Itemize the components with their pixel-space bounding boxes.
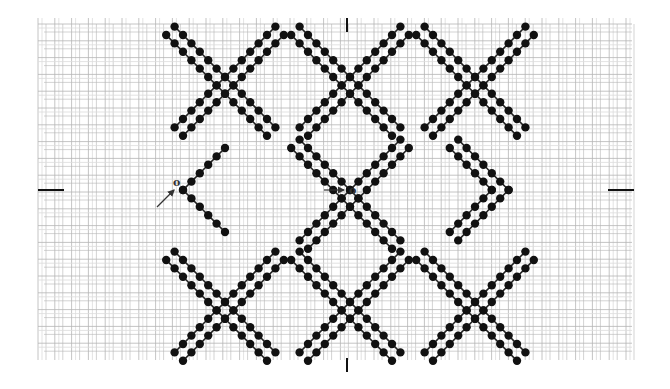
- stitch-point: [479, 177, 487, 185]
- stitch-point: [354, 306, 362, 314]
- stitch-point: [337, 306, 345, 314]
- stitch-point: [454, 281, 462, 289]
- stitch-point: [396, 135, 404, 143]
- stitch-point: [513, 256, 521, 264]
- stitch-point: [504, 331, 512, 339]
- stitch-point: [329, 73, 337, 81]
- stitch-point: [521, 348, 529, 356]
- stitch-point: [170, 22, 178, 30]
- stitch-point: [488, 315, 496, 323]
- stitch-point: [337, 64, 345, 72]
- stitch-point: [420, 123, 428, 131]
- stitch-point: [329, 331, 337, 339]
- stitch-point: [246, 64, 254, 72]
- stitch-point: [379, 236, 387, 244]
- stitch-point: [170, 123, 178, 131]
- stitch-point: [238, 331, 246, 339]
- stitch-point: [312, 219, 320, 227]
- stitch-point: [304, 256, 312, 264]
- stitch-point: [446, 48, 454, 56]
- stitch-point: [204, 211, 212, 219]
- stitch-point: [488, 169, 496, 177]
- stitch-point: [363, 315, 371, 323]
- stitch-point: [346, 315, 354, 323]
- stitch-point: [446, 273, 454, 281]
- stitch-point: [496, 289, 504, 297]
- stitch-point: [187, 264, 195, 272]
- stitch-point: [379, 106, 387, 114]
- stitch-point: [254, 39, 262, 47]
- stitch-point: [412, 31, 420, 39]
- start-label-center: o: [349, 184, 356, 197]
- stitch-point: [521, 22, 529, 30]
- stitch-point: [396, 247, 404, 255]
- stitch-point: [396, 22, 404, 30]
- stitch-point: [446, 228, 454, 236]
- stitch-point: [321, 48, 329, 56]
- stitch-point: [187, 177, 195, 185]
- stitch-point: [471, 315, 479, 323]
- stitch-point: [271, 247, 279, 255]
- stitch-point: [321, 211, 329, 219]
- stitch-point: [312, 56, 320, 64]
- stitch-point: [196, 273, 204, 281]
- stitch-point: [471, 90, 479, 98]
- stitch-point: [504, 56, 512, 64]
- stitch-point: [479, 64, 487, 72]
- stitch-point: [312, 39, 320, 47]
- stitch-point: [363, 281, 371, 289]
- stitch-point: [388, 115, 396, 123]
- stitch-point: [295, 123, 303, 131]
- stitch-point: [337, 323, 345, 331]
- stitch-point: [312, 281, 320, 289]
- stitch-point: [304, 228, 312, 236]
- stitch-point: [196, 64, 204, 72]
- stitch-point: [471, 169, 479, 177]
- stitch-point: [321, 161, 329, 169]
- stitch-point: [312, 123, 320, 131]
- stitch-point: [437, 264, 445, 272]
- stitch-point: [420, 39, 428, 47]
- stitch-point: [504, 106, 512, 114]
- stitch-point: [504, 348, 512, 356]
- stitch-point: [462, 144, 470, 152]
- stitch-point: [363, 203, 371, 211]
- stitch-point: [329, 219, 337, 227]
- stitch-point: [321, 323, 329, 331]
- stitch-point: [204, 281, 212, 289]
- stitch-point: [396, 236, 404, 244]
- stitch-point: [346, 298, 354, 306]
- stitch-point: [479, 81, 487, 89]
- stitch-point: [304, 161, 312, 169]
- stitch-point: [420, 247, 428, 255]
- stitch-point: [429, 273, 437, 281]
- stitch-point: [479, 289, 487, 297]
- stitch-point: [396, 152, 404, 160]
- stitch-point: [295, 247, 303, 255]
- stitch-point: [379, 169, 387, 177]
- stitch-point: [271, 123, 279, 131]
- stitch-point: [187, 39, 195, 47]
- stitch-point: [346, 203, 354, 211]
- stitch-point: [312, 331, 320, 339]
- stitch-point: [204, 90, 212, 98]
- stitch-point: [204, 73, 212, 81]
- stitch-point: [471, 203, 479, 211]
- stitch-point: [388, 245, 396, 253]
- stitch-point: [379, 123, 387, 131]
- stitch-point: [479, 161, 487, 169]
- stitch-point: [204, 56, 212, 64]
- stitch-point: [179, 340, 187, 348]
- stitch-point: [196, 289, 204, 297]
- stitch-point: [312, 264, 320, 272]
- stitch-point: [254, 264, 262, 272]
- stitch-point: [204, 315, 212, 323]
- stitch-point: [287, 144, 295, 152]
- stitch-point: [363, 219, 371, 227]
- stitch-point: [271, 348, 279, 356]
- stitch-point: [312, 152, 320, 160]
- stitch-point: [379, 56, 387, 64]
- stitch-point: [462, 323, 470, 331]
- stitch-point: [179, 31, 187, 39]
- stitch-point: [371, 48, 379, 56]
